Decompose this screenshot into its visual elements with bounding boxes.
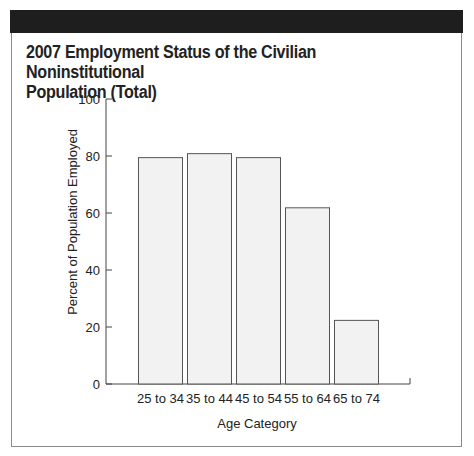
y-axis-title: Percent of Population Employed bbox=[65, 129, 80, 315]
bar-chart: 02040608010025 to 3435 to 4445 to 5455 t… bbox=[0, 0, 474, 456]
x-tick-label: 25 to 34 bbox=[137, 391, 184, 406]
bar bbox=[139, 158, 183, 384]
y-tick-label: 100 bbox=[78, 92, 100, 107]
bar bbox=[286, 208, 330, 384]
x-tick-label: 55 to 64 bbox=[284, 391, 331, 406]
x-tick-label: 65 to 74 bbox=[333, 391, 380, 406]
y-tick-label: 40 bbox=[86, 263, 100, 278]
x-tick-label: 45 to 54 bbox=[235, 391, 282, 406]
y-tick-label: 20 bbox=[86, 320, 100, 335]
y-tick-label: 0 bbox=[93, 377, 100, 392]
y-tick-label: 60 bbox=[86, 206, 100, 221]
x-axis-title: Age Category bbox=[217, 416, 297, 431]
x-tick-label: 35 to 44 bbox=[186, 391, 233, 406]
bar bbox=[237, 158, 281, 384]
y-tick-label: 80 bbox=[86, 149, 100, 164]
bar bbox=[188, 154, 232, 384]
bar bbox=[335, 320, 379, 384]
